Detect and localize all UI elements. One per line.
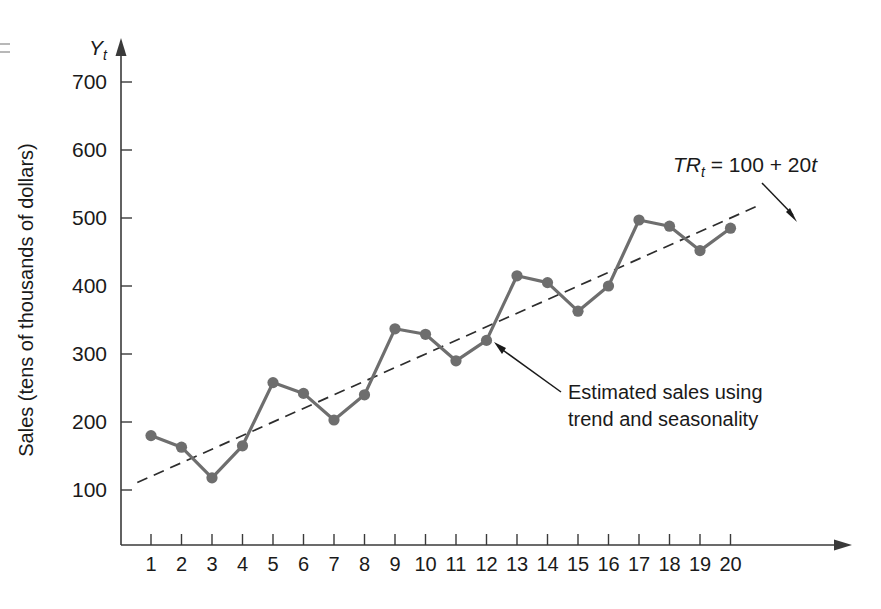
data-point [725,223,736,234]
x-tick-label-11: 11 [446,553,467,575]
x-tick-label-1: 1 [145,553,156,575]
x-tick-label-20: 20 [719,553,741,575]
x-tick-label-15: 15 [567,553,589,575]
equation-rhs: = 100 + 20 [705,153,811,176]
equation-lhs: TR [673,153,701,176]
trend-line-series [137,206,758,483]
data-point [267,377,278,388]
y-tick-group: 100200300400500600700 [72,70,132,501]
x-tick-label-2: 2 [176,553,187,575]
data-point [237,440,248,451]
data-point [206,472,217,483]
x-tick-label-16: 16 [597,553,619,575]
estimated-sales-annotation-line1: Estimated sales using [568,381,763,403]
data-point [542,277,553,288]
svg-text:Yt: Yt [89,36,108,63]
x-tick-label-5: 5 [267,553,278,575]
y-tick-label-300: 300 [72,342,107,365]
estimated-sales-series-line [151,220,731,478]
data-point [511,270,522,281]
data-point [145,430,156,441]
y-axis-symbol-subscript: t [103,47,108,63]
x-tick-label-7: 7 [328,553,339,575]
y-tick-label-400: 400 [72,274,107,297]
data-point [176,442,187,453]
x-tick-label-19: 19 [689,553,711,575]
x-tick-label-6: 6 [298,553,309,575]
data-point [420,329,431,340]
data-point [694,245,705,256]
x-tick-label-18: 18 [658,553,680,575]
y-tick-label-600: 600 [72,138,107,161]
estimated-sales-arrowhead [494,342,506,354]
data-point [481,335,492,346]
data-point [298,388,309,399]
estimated-sales-annotation-line2: trend and seasonality [568,408,758,430]
estimated-sales-annotation: Estimated sales using trend and seasonal… [494,342,763,430]
y-tick-label-200: 200 [72,410,107,433]
data-point [572,306,583,317]
y-tick-label-500: 500 [72,206,107,229]
x-tick-label-10: 10 [414,553,436,575]
figure-container: 100200300400500600700 123456789101112131… [0,0,881,609]
x-tick-label-8: 8 [359,553,370,575]
x-axis-arrowhead [834,540,852,551]
y-axis-symbol: Yt [89,36,108,63]
data-point [603,280,614,291]
x-tick-label-17: 17 [628,553,650,575]
data-point [328,414,339,425]
data-point [359,389,370,400]
y-tick-label-700: 700 [72,70,107,93]
trend-equation-annotation: TRt = 100 + 20t [673,153,818,222]
y-tick-label-100: 100 [72,478,107,501]
x-tick-label-14: 14 [536,553,558,575]
data-point [633,214,644,225]
x-tick-label-12: 12 [475,553,497,575]
data-point [389,323,400,334]
svg-text:TRt = 100 + 20t: TRt = 100 + 20t [673,153,818,180]
x-tick-group: 1234567891011121314151617181920 [145,534,741,575]
line-chart: 100200300400500600700 123456789101112131… [0,0,881,609]
y-axis: 100200300400500600700 [72,38,132,545]
data-point [450,355,461,366]
data-point [664,221,675,232]
x-tick-label-4: 4 [237,553,248,575]
x-tick-label-9: 9 [389,553,400,575]
y-axis-arrowhead [116,38,127,56]
y-axis-title: Sales (tens of thousands of dollars) [15,143,37,457]
equation-rhs-variable: t [811,153,818,176]
page-edge-marks [0,44,10,52]
x-axis: 1234567891011121314151617181920 [121,534,852,575]
x-tick-label-13: 13 [506,553,528,575]
x-tick-label-3: 3 [206,553,217,575]
